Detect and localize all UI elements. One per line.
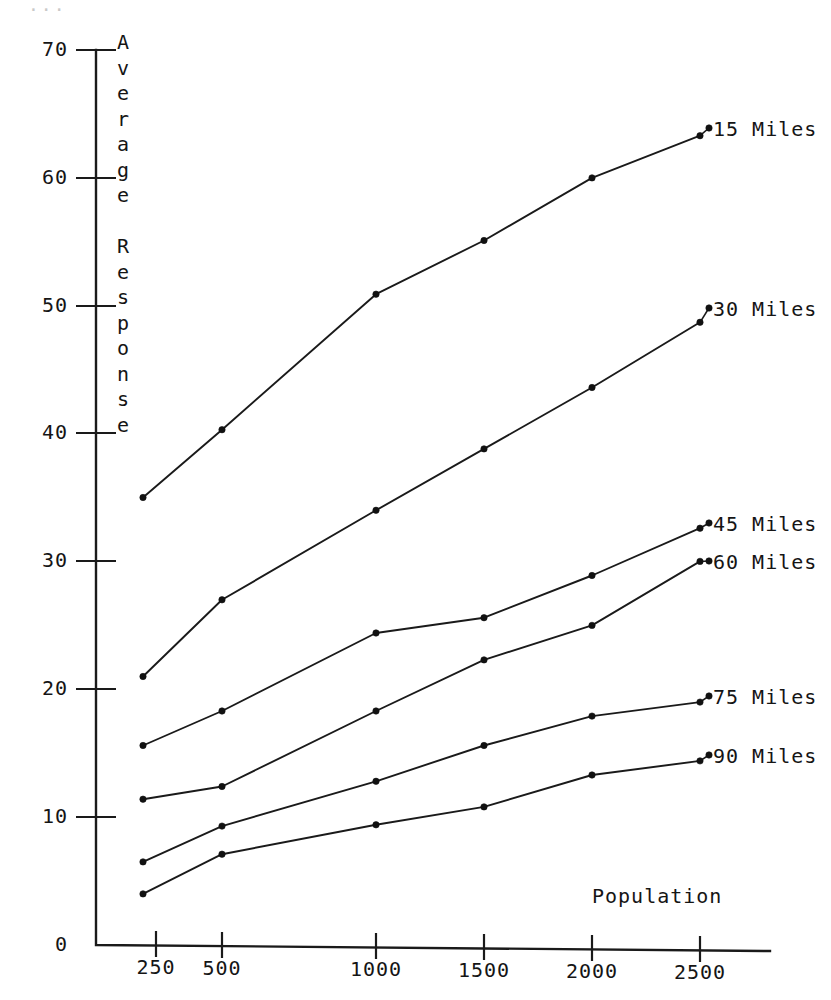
y-axis-title-char: p <box>117 311 129 337</box>
y-axis-title-char: A <box>117 30 129 56</box>
series-label: 90 Miles <box>713 744 817 768</box>
data-point-marker <box>373 778 379 784</box>
y-axis-title: AverageResponse <box>108 30 138 438</box>
data-point-marker <box>219 851 225 857</box>
chart-figure: ... AverageResponse <box>0 0 831 1000</box>
data-point-marker <box>140 796 146 802</box>
y-axis-title-char: e <box>117 81 129 107</box>
series-15-miles <box>140 125 712 501</box>
y-tick-label: 30 <box>8 548 68 572</box>
data-point-marker <box>481 446 487 452</box>
series-label-anchor-dot <box>706 558 712 564</box>
series-label: 30 Miles <box>713 297 817 321</box>
data-point-marker <box>589 175 595 181</box>
data-point-marker <box>697 133 703 139</box>
data-point-marker <box>697 319 703 325</box>
series-label: 15 Miles <box>713 117 817 141</box>
data-point-marker <box>373 507 379 513</box>
series-line <box>143 702 700 862</box>
series-label: 60 Miles <box>713 550 817 574</box>
data-point-marker <box>373 708 379 714</box>
data-point-marker <box>219 783 225 789</box>
data-point-marker <box>481 657 487 663</box>
y-axis-title-char: v <box>117 56 129 82</box>
data-point-marker <box>589 772 595 778</box>
data-point-marker <box>373 291 379 297</box>
data-point-marker <box>481 615 487 621</box>
series-label-anchor-dot <box>706 693 712 699</box>
data-point-marker <box>140 742 146 748</box>
data-point-marker <box>697 558 703 564</box>
y-axis-title-char: s <box>117 387 129 413</box>
y-axis-title-char: e <box>117 413 129 439</box>
y-tick-label: 20 <box>8 676 68 700</box>
data-point-marker <box>481 237 487 243</box>
data-point-marker <box>697 699 703 705</box>
x-tick-label: 500 <box>182 956 262 980</box>
y-tick-label: 70 <box>8 37 68 61</box>
x-tick-label: 2500 <box>660 960 740 984</box>
y-axis-title-char: a <box>117 132 129 158</box>
data-point-marker <box>481 804 487 810</box>
data-point-marker <box>219 427 225 433</box>
series-label-anchor-dot <box>706 752 712 758</box>
y-axis-title-char: e <box>117 183 129 209</box>
x-tick-label: 1000 <box>336 957 416 981</box>
series-line <box>143 322 700 676</box>
data-point-marker <box>589 622 595 628</box>
data-point-marker <box>140 494 146 500</box>
x-tick-label: 2000 <box>552 959 632 983</box>
y-tick-label: 50 <box>8 293 68 317</box>
data-point-marker <box>697 758 703 764</box>
data-point-marker <box>589 384 595 390</box>
series-line <box>143 761 700 894</box>
series-label: 45 Miles <box>713 512 817 536</box>
series-group <box>140 125 712 897</box>
series-45-miles <box>140 520 712 749</box>
series-label-anchor-dot <box>706 125 712 131</box>
y-axis-title-char: e <box>117 260 129 286</box>
series-label-anchor-dot <box>706 520 712 526</box>
y-axis-title-char: g <box>117 158 129 184</box>
y-axis-title-char: o <box>117 336 129 362</box>
data-point-marker <box>219 823 225 829</box>
series-75-miles <box>140 693 712 865</box>
data-point-marker <box>140 673 146 679</box>
data-point-marker <box>140 859 146 865</box>
data-point-marker <box>589 572 595 578</box>
data-point-marker <box>589 713 595 719</box>
data-point-marker <box>219 597 225 603</box>
series-line <box>143 136 700 498</box>
data-point-marker <box>697 525 703 531</box>
x-axis-title: Population <box>592 884 722 908</box>
y-tick-label: 40 <box>8 420 68 444</box>
y-tick-label: 60 <box>8 165 68 189</box>
data-point-marker <box>373 822 379 828</box>
y-axis-title-char: R <box>117 234 129 260</box>
series-label: 75 Miles <box>713 685 817 709</box>
data-point-marker <box>140 891 146 897</box>
axes-group <box>76 50 770 962</box>
y-axis-title-char: r <box>117 107 129 133</box>
y-tick-label: 0 <box>8 932 68 956</box>
x-tick-label: 1500 <box>444 958 524 982</box>
data-point-marker <box>219 708 225 714</box>
y-tick-label: 10 <box>8 804 68 828</box>
y-axis-title-char: n <box>117 362 129 388</box>
series-30-miles <box>140 305 712 680</box>
data-point-marker <box>481 742 487 748</box>
series-label-anchor-dot <box>706 305 712 311</box>
data-point-marker <box>373 630 379 636</box>
y-axis-title-char: s <box>117 285 129 311</box>
